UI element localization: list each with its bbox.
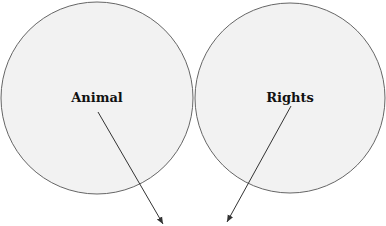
- label-animal: Animal: [70, 90, 123, 105]
- label-rights: Rights: [266, 90, 314, 105]
- venn-diagram: Animal Rights: [0, 0, 386, 226]
